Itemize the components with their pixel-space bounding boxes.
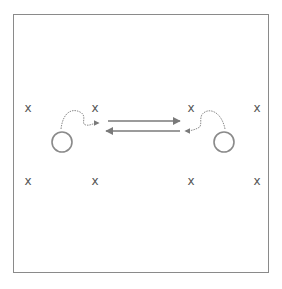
player-right-icon <box>214 132 234 152</box>
drill-drawing <box>0 0 282 289</box>
player-left-icon <box>52 132 72 152</box>
dribble-path-left-icon <box>61 111 99 129</box>
dribble-path-right-icon <box>185 111 225 131</box>
